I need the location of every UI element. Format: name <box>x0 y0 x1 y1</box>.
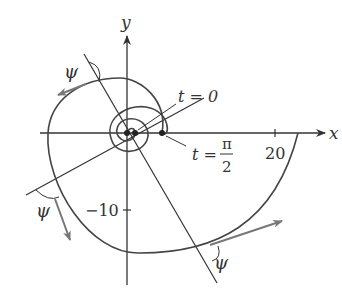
t-pi-half-point <box>159 130 165 136</box>
psi-label-upper-left: ψ <box>64 61 79 82</box>
t-equals-label: t = <box>192 145 217 164</box>
angle-arc-lower-left <box>36 190 59 198</box>
x-tick-label-20: 20 <box>265 144 285 163</box>
psi-label-lower-left: ψ <box>36 200 51 221</box>
y-tick-label-minus10: −10 <box>85 201 119 220</box>
spiral-curve-outer <box>48 78 298 253</box>
spiral-diagram: y x 20 −10 t = 0 t = π 2 ψ ψ ψ <box>0 0 342 301</box>
origin-point <box>124 130 130 136</box>
t0-point <box>132 130 138 136</box>
x-axis-label: x <box>329 123 339 143</box>
t-pi-half-label: t = π 2 <box>192 135 233 176</box>
two-denominator: 2 <box>222 158 232 176</box>
pi-numerator: π <box>222 135 232 153</box>
tangent-arrow-lower-right <box>210 221 282 245</box>
psi-label-lower-right: ψ <box>214 252 229 273</box>
t0-label: t = 0 <box>178 87 218 106</box>
y-axis-label: y <box>120 12 131 32</box>
tangent-arrow-upper-left <box>58 84 86 95</box>
t-pi-half-leader <box>166 136 186 146</box>
